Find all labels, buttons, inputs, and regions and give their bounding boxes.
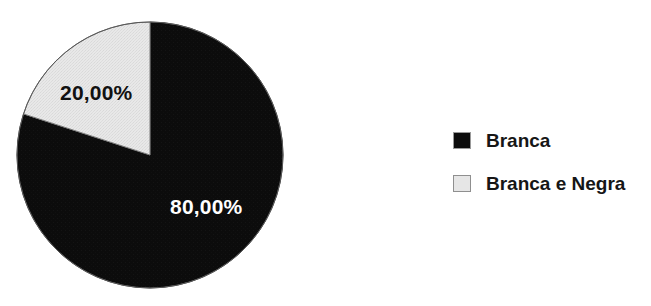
- legend-item-branca[interactable]: Branca: [453, 119, 643, 162]
- legend-swatch-gray-icon: [453, 175, 471, 192]
- pie-svg: [0, 0, 325, 306]
- slice-data-label-branca: 80,00%: [170, 196, 242, 217]
- pie-plot-area: 20,00% 80,00%: [0, 0, 325, 306]
- pie-chart-figure: 20,00% 80,00% Branca Branca e Negra: [0, 0, 651, 306]
- slice-data-label-branca-e-negra: 20,00%: [60, 82, 132, 103]
- chart-legend: Branca Branca e Negra: [453, 119, 643, 205]
- legend-swatch-black-icon: [453, 132, 471, 149]
- legend-label-branca: Branca: [486, 131, 550, 150]
- legend-item-branca-e-negra[interactable]: Branca e Negra: [453, 162, 643, 205]
- legend-label-branca-e-negra: Branca e Negra: [486, 174, 625, 193]
